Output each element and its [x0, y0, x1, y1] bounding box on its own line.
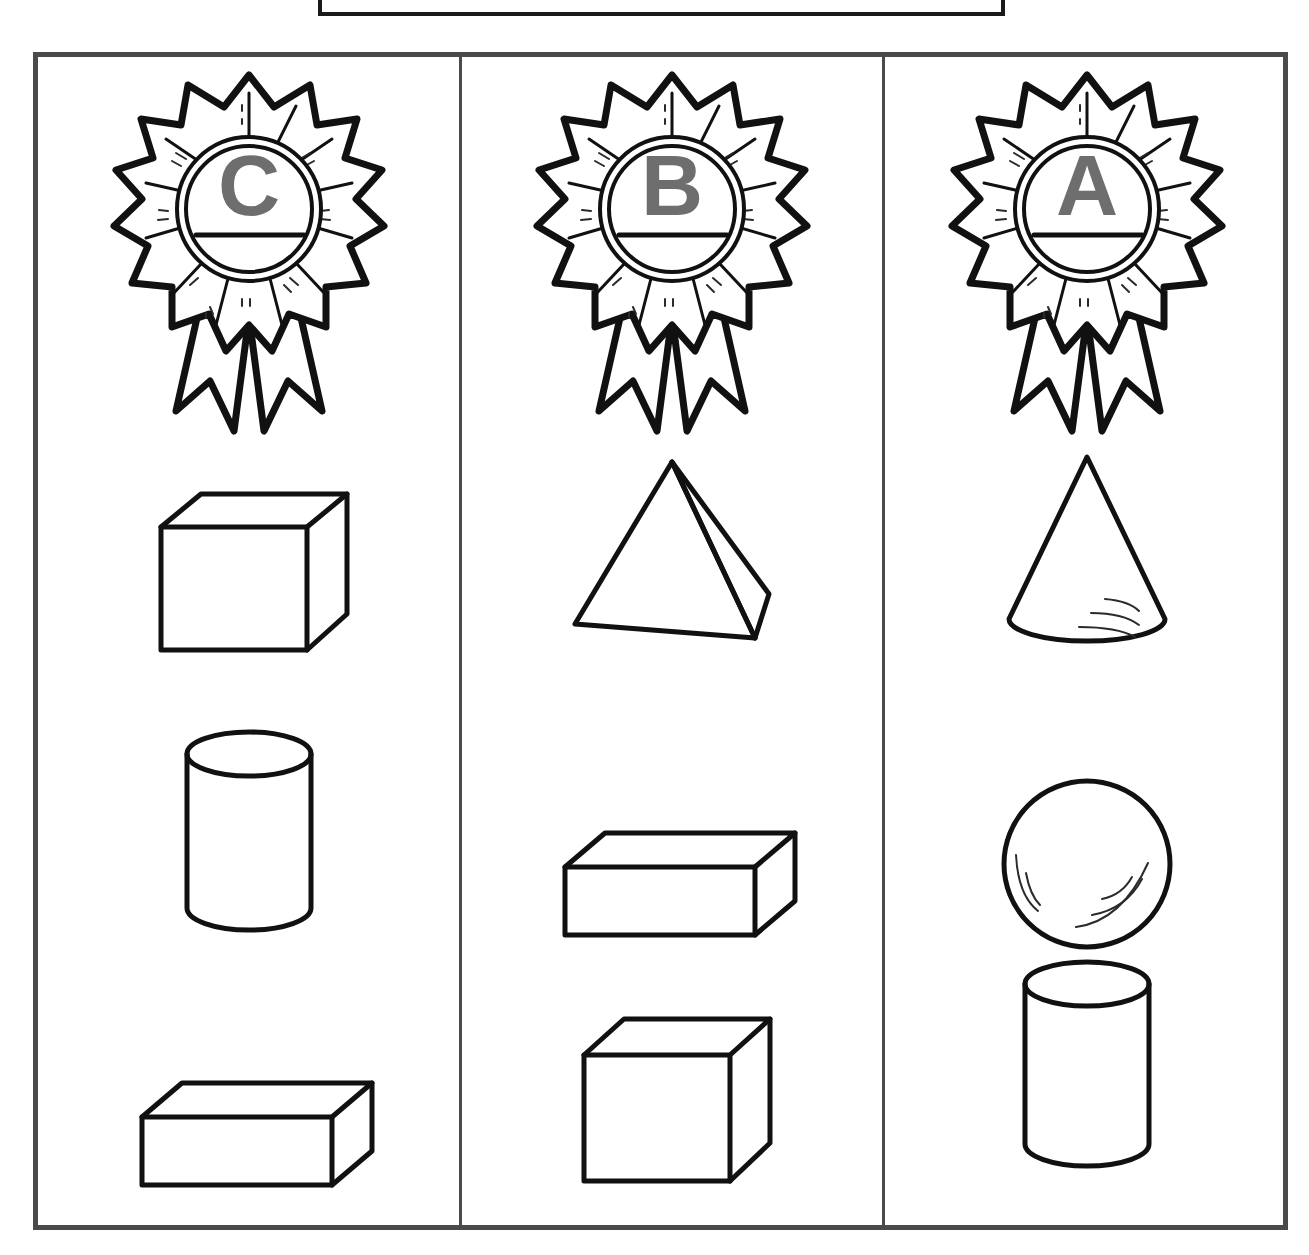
award-ribbon-b[interactable]: B	[537, 63, 807, 443]
shape-cube[interactable]	[562, 1005, 782, 1195]
award-ribbon-rosette-icon: B	[537, 63, 807, 443]
award-ribbon-c[interactable]: C	[114, 63, 384, 443]
award-ribbon-rosette-icon: C	[114, 63, 384, 443]
badge-letter-b: B	[641, 137, 703, 233]
shape-cone[interactable]	[987, 447, 1187, 657]
shape-square-pyramid[interactable]	[557, 452, 787, 652]
shapes-table-frame: C	[33, 52, 1288, 1230]
worksheet-page: C	[0, 0, 1309, 1255]
shape-cylinder[interactable]	[169, 722, 329, 952]
header-title-box	[318, 0, 1005, 16]
column-b: B	[462, 57, 882, 1225]
shape-rectangular-prism[interactable]	[124, 1067, 374, 1207]
award-ribbon-rosette-icon: A	[952, 63, 1222, 443]
badge-letter-a: A	[1055, 137, 1117, 233]
shape-cube[interactable]	[139, 482, 359, 662]
shape-cylinder[interactable]	[1007, 952, 1167, 1187]
shape-rectangular-prism[interactable]	[547, 817, 797, 957]
column-a: A	[885, 57, 1288, 1225]
shape-sphere[interactable]	[992, 769, 1182, 959]
award-ribbon-a[interactable]: A	[952, 63, 1222, 443]
badge-letter-c: C	[217, 137, 279, 233]
column-c: C	[38, 57, 459, 1225]
